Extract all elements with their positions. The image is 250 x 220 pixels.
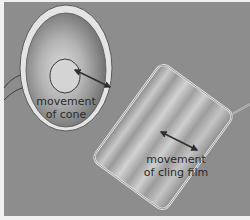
cone-label-line1: movement xyxy=(36,95,96,108)
diagram-canvas: movement of cone movement of cling film xyxy=(0,0,250,220)
cone-label-line2: of cone xyxy=(46,108,87,121)
film-label-line1: movement xyxy=(146,153,206,166)
top-border xyxy=(0,0,250,2)
film-label-line2: of cling film xyxy=(144,166,208,179)
speaker-cling-film-diagram: movement of cone movement of cling film xyxy=(0,0,250,220)
bottom-border xyxy=(0,216,250,220)
left-border xyxy=(0,0,4,220)
dust-cap xyxy=(50,59,80,93)
speaker-cone: movement of cone xyxy=(20,5,112,131)
